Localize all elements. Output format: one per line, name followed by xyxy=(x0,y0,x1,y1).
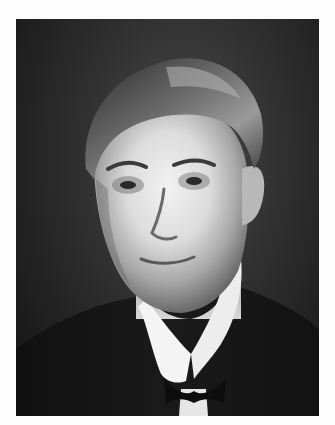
portrait-photo xyxy=(16,19,319,416)
right-eye xyxy=(186,177,202,185)
portrait-illustration xyxy=(16,19,319,416)
left-eye xyxy=(120,181,136,189)
ear-shape xyxy=(242,166,264,225)
page xyxy=(0,0,335,425)
